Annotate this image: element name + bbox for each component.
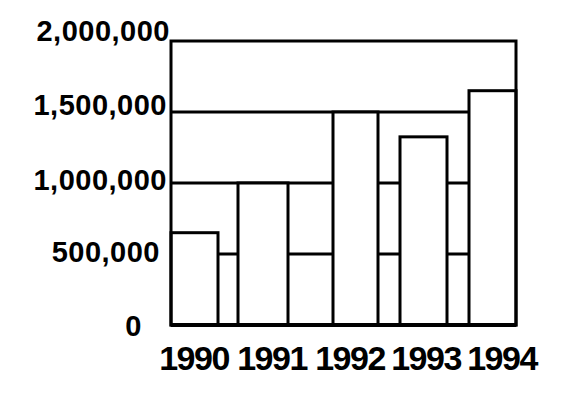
y-axis-tick-label: 0	[125, 312, 142, 340]
x-axis-tick-label: 1994	[467, 341, 537, 375]
y-axis-tick-label: 1,500,000	[33, 91, 167, 119]
y-axis-tick-label: 2,000,000	[36, 17, 170, 45]
bar-chart-svg	[0, 0, 561, 397]
x-axis-tick-label: 1993	[391, 341, 461, 375]
x-axis-tick-label: 1990	[159, 341, 229, 375]
y-axis-tick-label: 500,000	[52, 238, 160, 266]
x-axis-tick-label: 1991	[237, 341, 307, 375]
bar-chart: 2,000,000 1,500,000 1,000,000 500,000 0 …	[0, 0, 561, 397]
x-axis-tick-label: 1992	[315, 341, 385, 375]
y-axis-tick-label: 1,000,000	[33, 166, 167, 194]
